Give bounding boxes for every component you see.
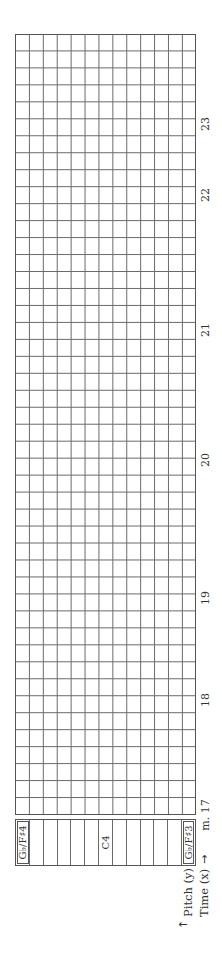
pitch-label-cell bbox=[154, 820, 168, 865]
pitch-time-worksheet: G♭/F♯4 C4 G♭/F♯3 m. 17 18 19 20 21 22 23… bbox=[0, 0, 222, 957]
pitch-label-cell bbox=[168, 820, 182, 865]
pitch-label-cell bbox=[113, 820, 127, 865]
measure-label-17: m. 17 bbox=[199, 799, 212, 830]
up-arrow-icon: ↑ bbox=[177, 920, 190, 929]
pitch-axis-text: Pitch (y) bbox=[181, 868, 195, 917]
pitch-label-cell bbox=[58, 820, 72, 865]
measure-label-19: 19 bbox=[199, 591, 212, 605]
pitch-label-cell bbox=[127, 820, 141, 865]
right-arrow-icon: → bbox=[198, 855, 211, 864]
pitch-label-cell bbox=[44, 820, 58, 865]
pitch-label-cell bbox=[141, 820, 155, 865]
pitch-label-strip: G♭/F♯4 C4 G♭/F♯3 bbox=[15, 819, 196, 866]
pitch-label-cell bbox=[30, 820, 44, 865]
pitch-label-cell bbox=[71, 820, 85, 865]
time-axis-text: Time (x) bbox=[197, 869, 211, 917]
measure-label-22: 22 bbox=[199, 188, 212, 202]
measure-label-21: 21 bbox=[199, 323, 212, 337]
measure-label-20: 20 bbox=[199, 453, 212, 467]
measure-label-18: 18 bbox=[199, 693, 212, 707]
pitch-axis-label: ↑ bbox=[176, 920, 190, 929]
pitch-label-c4: C4 bbox=[99, 820, 113, 865]
pitch-time-grid[interactable] bbox=[15, 34, 196, 815]
pitch-label-cell bbox=[85, 820, 99, 865]
pitch-label-gb-fs3: G♭/F♯3 bbox=[182, 820, 195, 865]
measure-label-23: 23 bbox=[199, 117, 212, 131]
time-axis-label: → bbox=[197, 855, 211, 864]
pitch-label-gb-fs4: G♭/F♯4 bbox=[16, 820, 30, 865]
